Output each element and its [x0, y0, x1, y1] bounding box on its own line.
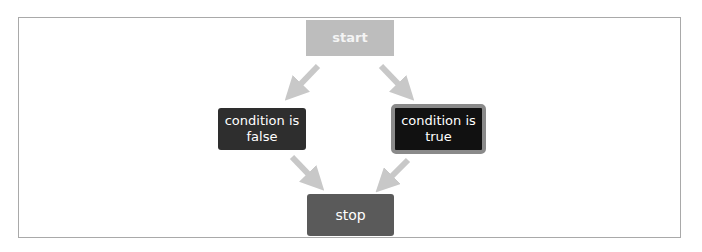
- start-label: start: [332, 30, 367, 46]
- arrow-start-to-true: [381, 66, 406, 92]
- condition-false-line2: false: [225, 129, 300, 145]
- condition-true-line1: condition is: [401, 113, 476, 129]
- condition-false-node: condition is false: [218, 108, 306, 150]
- condition-true-node: condition is true: [391, 104, 486, 154]
- condition-true-line2: true: [401, 129, 476, 145]
- condition-false-line1: condition is: [225, 113, 300, 129]
- arrow-true-to-stop: [384, 160, 408, 184]
- arrow-false-to-stop: [292, 157, 316, 182]
- stop-label: stop: [335, 207, 365, 223]
- stop-node: stop: [307, 194, 394, 236]
- start-node: start: [306, 20, 394, 56]
- arrow-start-to-false: [293, 66, 318, 92]
